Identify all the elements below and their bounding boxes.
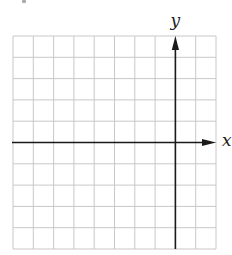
y-axis-label: y (170, 12, 180, 29)
grid-canvas (0, 0, 232, 255)
x-axis-label: x (222, 132, 232, 149)
x-axis-arrow-icon (202, 139, 216, 146)
coordinate-plane: y x (0, 0, 232, 255)
y-axis-arrow-icon (172, 36, 179, 50)
